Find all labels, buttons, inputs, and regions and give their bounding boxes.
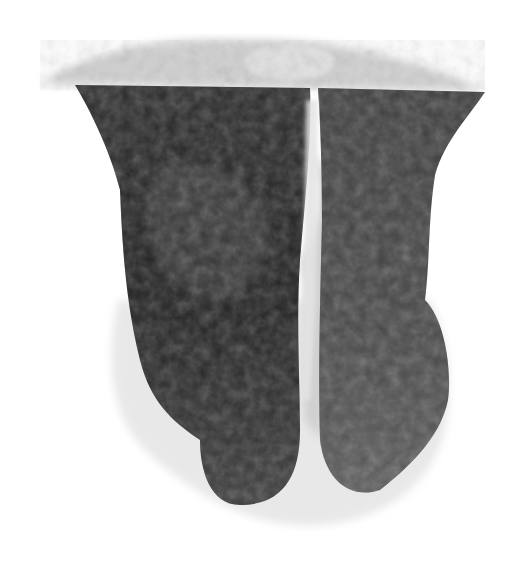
volume-render: [0, 0, 515, 564]
right-lobe: [318, 88, 485, 493]
top-cap: [40, 39, 485, 90]
mesh-render-canvas: [0, 0, 515, 564]
